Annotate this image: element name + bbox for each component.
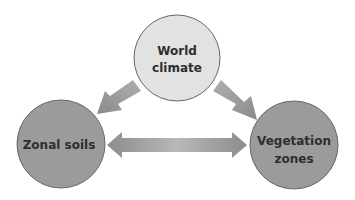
node-world-climate: World climate xyxy=(134,15,220,101)
node-vegetation-zones-label-line1: Vegetation xyxy=(257,134,331,148)
node-world-climate-label-line2: climate xyxy=(152,61,202,75)
diagram-canvas: World climate Zonal soils Vegetation zon… xyxy=(0,0,355,200)
node-world-climate-circle xyxy=(134,15,220,101)
arrow-soils-vegetation-bidirectional xyxy=(107,132,247,158)
arrow-climate-to-vegetation xyxy=(213,80,257,120)
node-vegetation-zones: Vegetation zones xyxy=(250,101,338,189)
node-zonal-soils-label: Zonal soils xyxy=(23,138,96,152)
node-zonal-soils: Zonal soils xyxy=(17,100,105,188)
node-world-climate-label-line1: World xyxy=(157,44,197,58)
node-vegetation-zones-label-line2: zones xyxy=(274,152,313,166)
arrow-climate-to-soils xyxy=(97,80,141,114)
